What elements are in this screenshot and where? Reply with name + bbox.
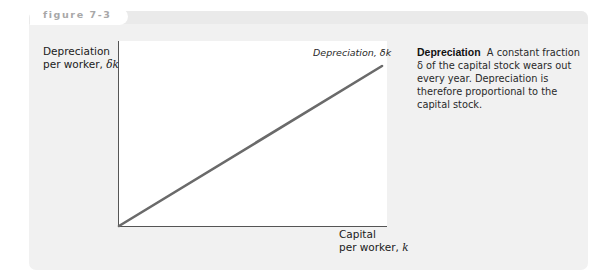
caption-title: Depreciation <box>417 46 481 58</box>
y-axis-label: Depreciation per worker, δk <box>43 45 119 71</box>
x-axis-symbol: k <box>402 241 408 253</box>
curve-label: Depreciation, δk <box>313 47 391 58</box>
depreciation-line <box>119 66 382 226</box>
x-axis-label-line1: Capital <box>339 228 409 241</box>
x-axis-label-line2: per worker, k <box>339 241 409 254</box>
figure-caption: Depreciation A constant fraction δ of th… <box>417 46 582 111</box>
x-axis-label-prefix: per worker, <box>339 241 402 253</box>
y-axis-label-line2: per worker, δk <box>43 58 119 71</box>
y-axis-label-prefix: per worker, <box>43 58 106 70</box>
chart-svg <box>0 0 616 276</box>
y-axis-symbol: δk <box>106 58 119 70</box>
y-axis-label-line1: Depreciation <box>43 45 119 58</box>
x-axis-label: Capital per worker, k <box>339 228 409 254</box>
